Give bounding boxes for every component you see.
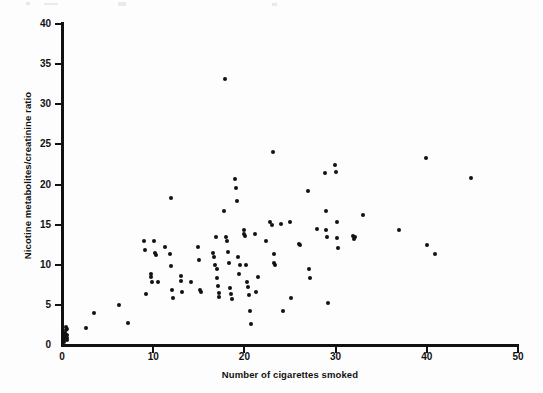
data-point xyxy=(245,280,249,284)
data-point xyxy=(244,263,248,267)
y-tick-mark xyxy=(55,63,61,65)
data-point xyxy=(180,290,184,294)
y-tick-mark xyxy=(55,304,61,306)
x-tick-label: 30 xyxy=(323,352,349,362)
scan-artifact xyxy=(44,3,58,5)
data-point xyxy=(228,286,232,290)
data-point xyxy=(272,261,276,265)
data-point xyxy=(215,267,219,271)
data-point xyxy=(335,220,339,224)
y-tick-mark xyxy=(55,143,61,145)
data-point xyxy=(224,235,228,239)
y-tick-mark xyxy=(55,224,61,226)
x-axis-line xyxy=(61,344,519,347)
data-point xyxy=(212,255,216,259)
data-point xyxy=(335,236,339,240)
data-point xyxy=(271,150,275,154)
data-point xyxy=(217,295,221,299)
data-point xyxy=(425,243,429,247)
data-point xyxy=(215,276,219,280)
x-tick-label: 0 xyxy=(49,352,75,362)
data-point xyxy=(352,237,356,241)
data-point xyxy=(65,338,69,342)
data-point xyxy=(236,255,240,259)
data-point xyxy=(126,321,130,325)
data-point xyxy=(65,333,69,337)
data-point xyxy=(143,248,147,252)
data-point xyxy=(273,263,277,267)
data-point xyxy=(189,280,193,284)
data-point xyxy=(264,239,268,243)
data-point xyxy=(351,234,355,238)
data-point xyxy=(179,279,183,283)
data-point xyxy=(64,325,68,329)
data-point xyxy=(235,199,239,203)
data-point xyxy=(168,252,172,256)
data-point xyxy=(272,252,276,256)
y-tick-mark xyxy=(55,23,61,25)
data-point xyxy=(397,228,401,232)
data-point xyxy=(199,290,203,294)
data-point xyxy=(333,163,337,167)
data-point xyxy=(153,251,157,255)
data-point xyxy=(288,220,292,224)
data-point xyxy=(253,232,257,236)
data-point xyxy=(308,276,312,280)
data-point xyxy=(353,235,357,239)
y-axis-title: Nicotine metabolites/creatinine ratio xyxy=(22,76,33,276)
data-point xyxy=(279,222,283,226)
data-point xyxy=(307,267,311,271)
data-point xyxy=(336,246,340,250)
data-point xyxy=(315,227,319,231)
y-tick-label: 40 xyxy=(29,19,51,29)
x-axis-title: Number of cigarettes smoked xyxy=(61,369,519,380)
data-point xyxy=(216,284,220,288)
data-point xyxy=(156,280,160,284)
data-point xyxy=(229,292,233,296)
data-point xyxy=(92,311,96,315)
data-point xyxy=(433,252,437,256)
data-point xyxy=(214,235,218,239)
data-point xyxy=(163,245,167,249)
data-point xyxy=(226,250,230,254)
data-point xyxy=(170,288,174,292)
data-point xyxy=(249,322,253,326)
data-point xyxy=(217,291,221,295)
data-point xyxy=(117,303,121,307)
data-point xyxy=(247,293,251,297)
data-point xyxy=(223,77,227,81)
data-point xyxy=(64,328,68,332)
y-tick-label: 35 xyxy=(29,59,51,69)
y-tick-mark xyxy=(55,264,61,266)
data-point xyxy=(169,264,173,268)
data-point xyxy=(237,272,241,276)
y-tick-mark xyxy=(55,184,61,186)
data-point xyxy=(289,296,293,300)
data-point xyxy=(270,223,274,227)
data-point xyxy=(65,327,69,331)
data-point xyxy=(325,235,329,239)
data-point xyxy=(222,209,226,213)
data-point xyxy=(196,245,200,249)
data-point xyxy=(230,297,234,301)
data-point xyxy=(324,209,328,213)
data-point xyxy=(84,326,88,330)
data-point xyxy=(242,228,246,232)
data-point xyxy=(225,239,229,243)
data-point xyxy=(361,213,365,217)
x-tick-label: 10 xyxy=(140,352,166,362)
x-tick-label: 50 xyxy=(505,352,531,362)
data-point xyxy=(169,196,173,200)
data-point xyxy=(256,275,260,279)
x-tick-label: 20 xyxy=(231,352,257,362)
data-point xyxy=(154,253,158,257)
data-point xyxy=(424,156,428,160)
data-point xyxy=(234,186,238,190)
x-tick-label: 40 xyxy=(414,352,440,362)
data-point xyxy=(65,336,69,340)
y-tick-label: 0 xyxy=(29,340,51,350)
data-point xyxy=(179,274,183,278)
plot-area xyxy=(0,0,543,393)
data-point xyxy=(323,171,327,175)
data-point xyxy=(150,280,154,284)
